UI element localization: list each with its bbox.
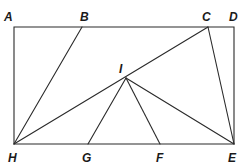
rectangle-adeh (14, 27, 234, 144)
segment-ce (208, 27, 234, 144)
point-label-h: H (8, 151, 17, 165)
point-label-i: I (119, 62, 123, 76)
segment-hc (14, 27, 208, 144)
point-label-c: C (202, 10, 211, 24)
segment-hb (14, 27, 82, 144)
point-label-b: B (80, 10, 89, 24)
geometry-diagram: ABCDEFGHI (0, 0, 248, 167)
point-label-e: E (228, 151, 237, 165)
point-label-d: D (229, 10, 238, 24)
segment-ie (126, 78, 234, 144)
point-label-a: A (3, 10, 13, 24)
segments-group (14, 27, 234, 144)
point-label-f: F (156, 151, 164, 165)
point-label-g: G (82, 151, 91, 165)
